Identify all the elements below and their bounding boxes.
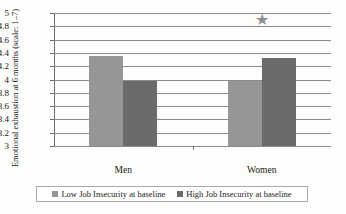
bar (262, 58, 296, 146)
legend-label-low: Low Job Insecurity at baseline (61, 189, 165, 199)
legend-label-high: High Job Insecurity at baseline (186, 189, 291, 199)
legend-item-high: High Job Insecurity at baseline (177, 189, 291, 199)
y-tick-label: 3 (5, 141, 10, 151)
y-tick (50, 40, 54, 41)
y-tick (50, 93, 54, 94)
y-tick (50, 106, 54, 107)
y-tick-label: 5 (5, 8, 10, 18)
y-tick (50, 146, 54, 147)
y-tick-label: 3.6 (0, 101, 9, 111)
legend-swatch-high (177, 191, 183, 197)
y-tick (50, 133, 54, 134)
gridline (54, 26, 331, 27)
gridline (54, 40, 331, 41)
x-tick (193, 146, 194, 150)
legend-swatch-low (52, 191, 58, 197)
y-tick (50, 13, 54, 14)
significance-star-icon: ★ (255, 12, 269, 28)
category-label: Women (247, 165, 276, 175)
plot-area: ★ MenWomen (54, 13, 331, 146)
y-axis-title: Emotional exhaustion at 6 months (scale:… (10, 8, 20, 166)
y-tick-label: 4.8 (0, 21, 9, 31)
y-tick (50, 119, 54, 120)
y-tick (50, 66, 54, 67)
gridline (54, 13, 331, 14)
bar (228, 81, 262, 146)
gridline (54, 53, 331, 54)
bar-chart-figure: Emotional exhaustion at 6 months (scale:… (0, 0, 346, 214)
y-tick-label: 3.2 (0, 128, 9, 138)
y-tick-label: 4.4 (0, 48, 9, 58)
y-tick-label: 3.8 (0, 88, 9, 98)
y-tick-label: 4 (5, 75, 10, 85)
y-tick-label: 4.6 (0, 35, 9, 45)
legend-item-low: Low Job Insecurity at baseline (52, 189, 165, 199)
y-tick (50, 80, 54, 81)
chart-legend: Low Job Insecurity at baseline High Job … (36, 186, 308, 202)
y-tick-label: 3.4 (0, 114, 9, 124)
bar (123, 81, 157, 146)
category-label: Men (115, 165, 132, 175)
y-tick (50, 53, 54, 54)
y-tick (50, 26, 54, 27)
bar (89, 56, 123, 146)
y-tick-label: 4.2 (0, 61, 9, 71)
